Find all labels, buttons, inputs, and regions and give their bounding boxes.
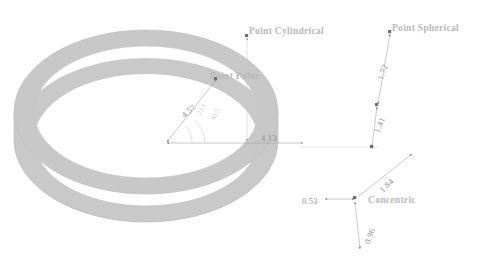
- vertex-markers: [214, 30, 391, 199]
- callout-point-cylindrical: Point Cylindrical: [249, 27, 324, 37]
- dimension-horizontal-0-53: 0.53: [302, 197, 318, 206]
- callout-point-polar: Point Polar: [210, 72, 259, 82]
- annotation-layer: [0, 0, 489, 273]
- diagram-canvas: Point Cylindrical Point Polar Point Sphe…: [0, 0, 489, 273]
- angle-arc-outer: [195, 120, 205, 143]
- dimension-horizontal-4-13: 4.13: [261, 134, 277, 143]
- callout-concentric: Concentric: [368, 196, 416, 206]
- angle-arc-inner: [186, 126, 192, 143]
- callout-point-spherical: Point Spherical: [392, 24, 459, 34]
- leader-vert-096: [355, 202, 360, 249]
